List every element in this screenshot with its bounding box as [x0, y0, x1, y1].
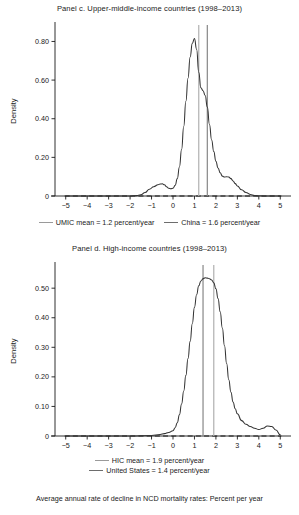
x-tick-label: 1	[192, 441, 196, 450]
y-tick-label: 0.50	[35, 284, 49, 293]
y-axis-title: Density	[9, 338, 18, 364]
x-tick-label: 1	[192, 201, 196, 210]
x-tick-label: −2	[126, 441, 134, 450]
legend-item-umic-mean: UMIC mean = 1.2 percent/year	[39, 219, 154, 227]
legend-item-united-states: United States = 1.4 percent/year	[89, 467, 209, 475]
x-tick-label: −3	[105, 201, 113, 210]
x-tick-label: −5	[62, 201, 70, 210]
legend-label-china: China = 1.6 percent/year	[181, 219, 260, 227]
x-tick-label: −2	[126, 201, 134, 210]
y-tick-label: 0.80	[35, 37, 49, 46]
x-tick-label: 0	[171, 201, 175, 210]
x-tick-label: −1	[147, 201, 155, 210]
x-tick-label: 2	[214, 441, 218, 450]
panel-c: Panel c. Upper-middle-income countries (…	[0, 0, 299, 238]
panel-d-plot: 00.100.200.300.400.50Density−5−4−3−2−101…	[0, 240, 299, 455]
panel-d: Panel d. High-income countries (1998–201…	[0, 240, 299, 490]
legend-swatch-umic-mean	[39, 222, 53, 223]
x-tick-label: 3	[235, 201, 239, 210]
y-tick-label: 0.20	[35, 372, 49, 381]
x-tick-label: 4	[257, 201, 261, 210]
figure-container: Panel c. Upper-middle-income countries (…	[0, 0, 299, 515]
x-tick-label: 4	[257, 441, 261, 450]
legend-swatch-united-states	[89, 470, 103, 471]
x-tick-label: −3	[105, 441, 113, 450]
legend-label-hic-mean: HIC mean = 1.9 percent/year	[112, 457, 205, 465]
y-tick-label: 0.10	[35, 402, 49, 411]
x-tick-label: 5	[278, 201, 282, 210]
y-tick-label: 0	[45, 192, 49, 201]
x-tick-label: 2	[214, 201, 218, 210]
x-tick-label: 0	[171, 441, 175, 450]
x-tick-label: −1	[147, 441, 155, 450]
figure-caption: Average annual rate of decline in NCD mo…	[0, 494, 299, 503]
density-curve	[66, 278, 281, 436]
panel-c-plot: 00.200.400.600.80Density−5−4−3−2−1012345	[0, 0, 299, 215]
x-tick-label: 3	[235, 441, 239, 450]
x-tick-label: −5	[62, 441, 70, 450]
x-tick-label: −4	[83, 441, 91, 450]
y-axis-title: Density	[9, 98, 18, 124]
legend-item-china: China = 1.6 percent/year	[164, 219, 260, 227]
y-tick-label: 0.40	[35, 313, 49, 322]
legend-swatch-hic-mean	[95, 460, 109, 461]
y-tick-label: 0.30	[35, 343, 49, 352]
legend-swatch-china	[164, 222, 178, 223]
y-tick-label: 0.60	[35, 76, 49, 85]
x-tick-label: 5	[278, 441, 282, 450]
y-tick-label: 0.40	[35, 114, 49, 123]
x-tick-label: −4	[83, 201, 91, 210]
y-tick-label: 0	[45, 432, 49, 441]
density-curve	[66, 39, 281, 196]
panel-c-legend: UMIC mean = 1.2 percent/year China = 1.6…	[0, 219, 299, 227]
legend-item-hic-mean: HIC mean = 1.9 percent/year	[95, 457, 205, 465]
legend-label-united-states: United States = 1.4 percent/year	[106, 467, 209, 475]
panel-d-legend: HIC mean = 1.9 percent/year United State…	[0, 457, 299, 475]
panel-c-svg: 00.200.400.600.80Density−5−4−3−2−1012345	[0, 0, 299, 215]
y-tick-label: 0.20	[35, 153, 49, 162]
legend-label-umic-mean: UMIC mean = 1.2 percent/year	[56, 219, 154, 227]
panel-d-svg: 00.100.200.300.400.50Density−5−4−3−2−101…	[0, 240, 299, 455]
